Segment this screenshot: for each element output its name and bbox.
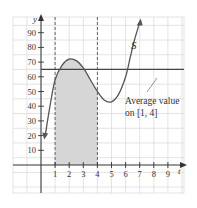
annotation-leader-line [147,78,157,92]
y-tick-label: 20 [28,131,37,141]
y-tick-label: 70 [28,57,37,67]
curve-start-arrow-icon [42,133,48,140]
chart: 123456789 102030405060708090 y t S Avera… [0,0,197,208]
curve-label-s: S [131,39,137,51]
y-tick-label: 50 [28,87,37,97]
x-tick-label: 2 [67,169,71,179]
x-tick-label: 1 [53,169,57,179]
x-tick-labels: 123456789 [53,169,170,179]
x-tick-label: 7 [138,169,142,179]
y-axis-arrow-icon [38,14,44,21]
y-tick-label: 90 [28,28,37,38]
y-tick-label: 80 [28,42,37,52]
x-tick-label: 3 [81,169,85,179]
x-tick-label: 8 [152,169,156,179]
x-tick-label: 6 [123,169,127,179]
annotation-average-value: Average value [125,96,179,106]
shaded-area-1-to-4 [55,59,97,165]
x-tick-label: 9 [166,169,170,179]
x-axis-arrow-icon [180,162,187,168]
y-axis-label: y [32,14,37,24]
y-tick-label: 10 [28,145,37,155]
y-tick-label: 30 [28,116,37,126]
annotation-interval: on [1, 4] [125,108,157,118]
y-tick-label: 40 [28,101,37,111]
y-tick-labels: 102030405060708090 [28,28,37,156]
x-tick-label: 4 [95,169,100,179]
x-tick-label: 5 [109,169,113,179]
y-tick-label: 60 [28,72,37,82]
